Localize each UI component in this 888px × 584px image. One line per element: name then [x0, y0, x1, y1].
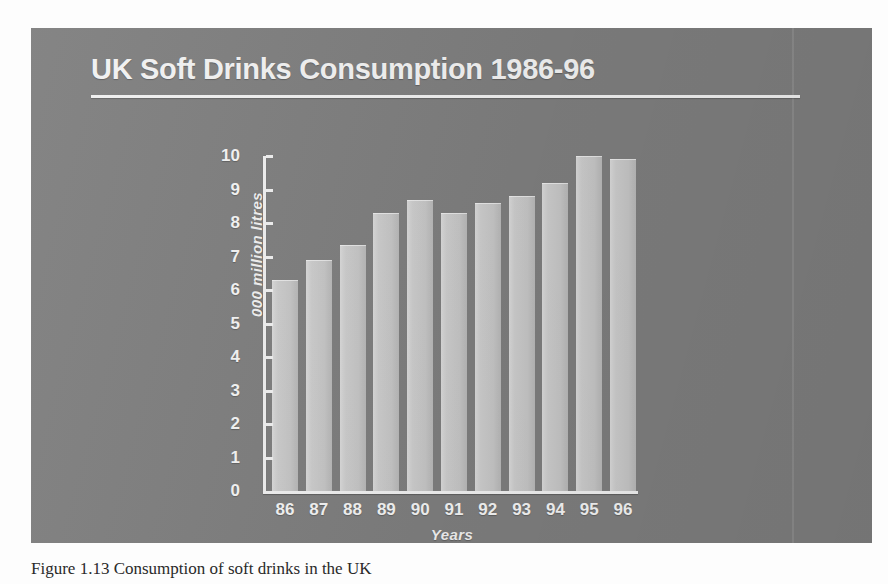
y-axis-tick-label: 5 — [231, 314, 240, 334]
slide-figure: UK Soft Drinks Consumption 1986-96 000 m… — [31, 28, 872, 543]
y-axis-tick-label: 0 — [231, 481, 240, 501]
y-axis-tick-label: 6 — [231, 280, 240, 300]
bar-90 — [407, 200, 433, 491]
x-axis-tick-label: 87 — [302, 500, 336, 520]
bar-chart: 000 million litres 012345678910 86878889… — [176, 128, 676, 528]
y-axis-tick-mark — [266, 457, 273, 460]
bar-91 — [441, 213, 467, 491]
bar-series — [266, 156, 638, 491]
x-axis-tick-label: 91 — [437, 500, 471, 520]
bar-93 — [509, 196, 535, 491]
page-background: UK Soft Drinks Consumption 1986-96 000 m… — [0, 0, 888, 584]
x-axis-line — [263, 491, 638, 494]
x-axis-tick-label: 92 — [471, 500, 505, 520]
y-axis-tick-label: 1 — [231, 448, 240, 468]
y-axis-tick-labels: 012345678910 — [214, 156, 240, 491]
y-axis-tick-label: 7 — [231, 247, 240, 267]
bar-96 — [610, 159, 636, 491]
y-axis-tick-mark — [266, 256, 273, 259]
bar-88 — [340, 245, 366, 491]
page-title: UK Soft Drinks Consumption 1986-96 — [91, 52, 831, 86]
y-axis-title: 000 million litres — [248, 160, 265, 350]
y-axis-tick-mark — [266, 390, 273, 393]
y-axis-tick-label: 3 — [231, 381, 240, 401]
figure-caption: Figure 1.13 Consumption of soft drinks i… — [31, 556, 872, 582]
bar-92 — [475, 203, 501, 491]
y-axis-tick-label: 10 — [221, 146, 240, 166]
x-axis-tick-label: 88 — [336, 500, 370, 520]
x-axis-title: Years — [266, 526, 638, 543]
y-axis-tick-mark — [266, 423, 273, 426]
bar-87 — [306, 260, 332, 491]
y-axis-tick-mark — [266, 189, 273, 192]
x-axis-tick-label: 94 — [538, 500, 572, 520]
y-axis-tick-mark — [266, 155, 273, 158]
x-axis-tick-label: 90 — [403, 500, 437, 520]
scan-seam — [792, 28, 794, 543]
x-axis-tick-label: 86 — [268, 500, 302, 520]
title-block: UK Soft Drinks Consumption 1986-96 — [91, 52, 831, 98]
y-axis-tick-mark — [266, 289, 273, 292]
bar-86 — [272, 280, 298, 491]
y-axis-tick-mark — [266, 323, 273, 326]
y-axis-tick-label: 9 — [231, 180, 240, 200]
y-axis-tick-label: 2 — [231, 414, 240, 434]
x-axis-tick-labels: 8687888990919293949596 — [266, 500, 638, 524]
title-underline-rule — [91, 95, 800, 98]
bar-95 — [576, 156, 602, 491]
y-axis-tick-mark — [266, 222, 273, 225]
y-axis-tick-label: 8 — [231, 213, 240, 233]
y-axis-tick-mark — [266, 356, 273, 359]
x-axis-tick-label: 93 — [505, 500, 539, 520]
bar-94 — [542, 183, 568, 491]
x-axis-tick-label: 95 — [572, 500, 606, 520]
plot-area — [263, 156, 638, 491]
bar-89 — [373, 213, 399, 491]
y-axis-tick-label: 4 — [231, 347, 240, 367]
x-axis-tick-label: 96 — [606, 500, 640, 520]
x-axis-tick-label: 89 — [369, 500, 403, 520]
